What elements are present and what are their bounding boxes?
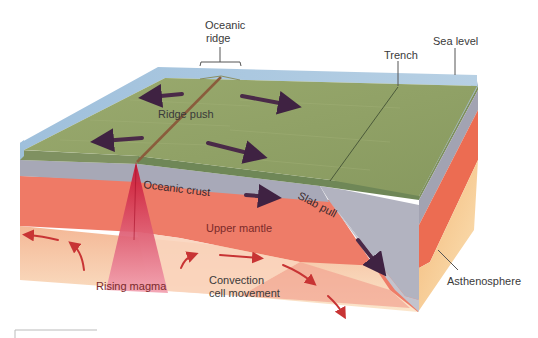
crust-motion-arrow bbox=[246, 195, 270, 197]
label-asthenosphere: Asthenosphere bbox=[447, 275, 521, 287]
ridge-bracket bbox=[200, 62, 241, 66]
label-rising-magma: Rising magma bbox=[96, 280, 167, 292]
label-oceanic-ridge-2: ridge bbox=[206, 32, 230, 44]
label-ridge-push: Ridge push bbox=[158, 108, 214, 120]
label-convection-2: cell movement bbox=[209, 287, 280, 299]
label-oceanic-ridge-1: Oceanic bbox=[205, 19, 246, 31]
label-upper-mantle: Upper mantle bbox=[206, 222, 272, 234]
corner-rule bbox=[15, 330, 97, 338]
label-convection-1: Convection bbox=[209, 274, 264, 286]
label-sea-level: Sea level bbox=[433, 35, 478, 47]
label-trench: Trench bbox=[384, 49, 418, 61]
plate-tectonics-diagram: Oceanic ridge Trench Sea level Ridge pus… bbox=[0, 0, 538, 338]
